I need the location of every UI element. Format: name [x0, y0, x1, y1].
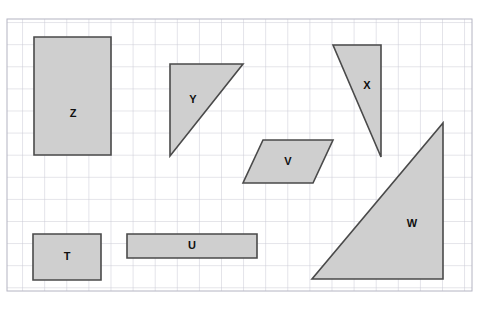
geometry-figure-canvas: ZYXVWTU — [0, 0, 480, 310]
shape-z-label: Z — [70, 107, 77, 119]
shape-v-label: V — [284, 155, 292, 167]
shape-z: Z — [34, 37, 111, 155]
shape-y-label: Y — [189, 93, 197, 105]
shape-z-outline — [34, 37, 111, 155]
shape-u: U — [127, 234, 257, 258]
shape-w-label: W — [407, 217, 418, 229]
shape-t-label: T — [64, 250, 71, 262]
shape-x-label: X — [363, 79, 371, 91]
shape-t: T — [33, 234, 101, 280]
worksheet-figure: ZYXVWTU — [0, 0, 480, 310]
shape-u-label: U — [188, 239, 196, 251]
